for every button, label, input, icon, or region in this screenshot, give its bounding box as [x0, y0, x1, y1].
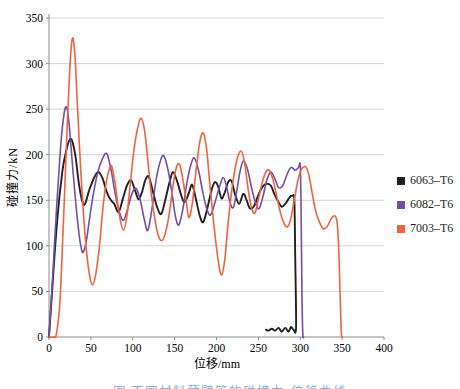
figure: 0501001502002503003500501001502002503003…	[0, 0, 460, 389]
x-tick-label-150: 150	[166, 342, 184, 354]
y-tick-label-250: 250	[26, 103, 44, 115]
x-tick-label-0: 0	[46, 342, 52, 354]
legend-label: 7003–T6	[410, 221, 453, 236]
legend: 6063–T66082–T67003–T6	[397, 174, 453, 235]
x-tick-label-100: 100	[124, 342, 142, 354]
x-tick-label-50: 50	[85, 342, 97, 354]
legend-label: 6082–T6	[410, 197, 453, 212]
x-tick-label-250: 250	[250, 342, 268, 354]
series-line-7003-T6	[49, 38, 342, 337]
x-tick-label-200: 200	[208, 342, 226, 354]
y-tick-label-50: 50	[32, 285, 44, 297]
x-tick-label-400: 400	[375, 342, 393, 354]
y-tick-label-100: 100	[26, 240, 44, 252]
y-tick-label-150: 150	[26, 194, 44, 206]
legend-marker-icon	[397, 201, 405, 209]
legend-label: 6063–T6	[410, 173, 453, 188]
y-tick-label-300: 300	[26, 58, 44, 70]
x-axis-title: 位移/mm	[49, 354, 385, 372]
legend-marker-icon	[397, 225, 405, 233]
legend-item-6082-T6: 6082–T6	[397, 198, 453, 211]
y-tick-label-0: 0	[37, 331, 43, 343]
x-tick-label-300: 300	[292, 342, 310, 354]
y-tick-label-200: 200	[26, 149, 44, 161]
chart-plot-area: 0501001502002503003500501001502002503003…	[0, 0, 460, 389]
y-tick-label-350: 350	[26, 12, 44, 24]
y-axis-title: 碰撞力/kN	[3, 137, 21, 217]
x-tick-label-350: 350	[334, 342, 352, 354]
series-line-6082-T6	[49, 107, 304, 338]
figure-caption-clipped: 图 不同材料薄壁管的碰撞力-位移曲线	[0, 381, 460, 389]
legend-item-7003-T6: 7003–T6	[397, 222, 453, 235]
legend-item-6063-T6: 6063–T6	[397, 174, 453, 187]
legend-marker-icon	[397, 177, 405, 185]
